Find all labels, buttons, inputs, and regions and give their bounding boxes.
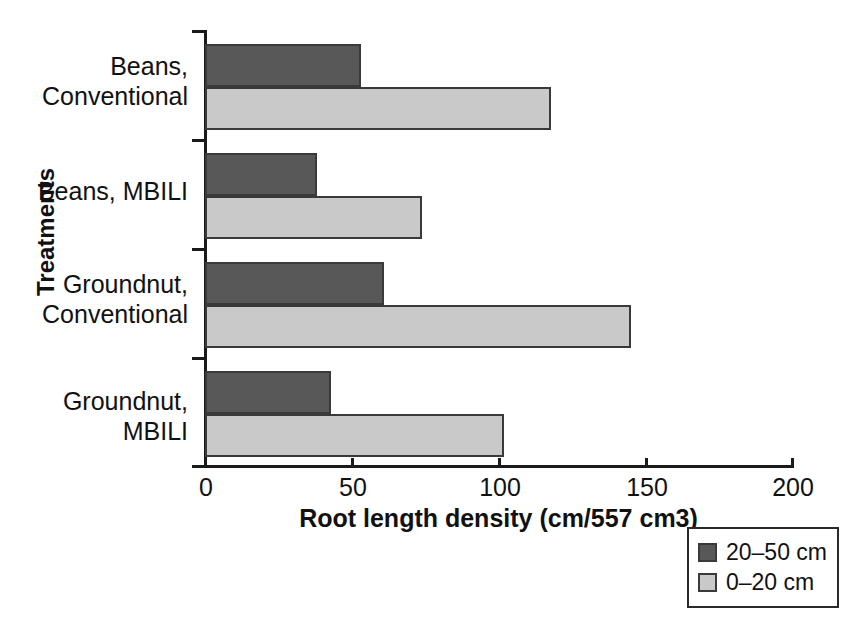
legend-label: 20–50 cm	[726, 539, 827, 566]
y-category-label-line: Beans, MBILI	[8, 176, 188, 206]
bar-groundnut-conventional-0-20	[205, 305, 631, 348]
x-tick-label-50: 50	[339, 473, 367, 502]
y-axis-tick	[192, 30, 205, 33]
chart-figure: Treatments Root length density (cm/557 c…	[0, 0, 849, 619]
x-tick-label-0: 0	[199, 473, 213, 502]
y-category-label-line: Groundnut,	[8, 269, 188, 299]
y-axis-tick	[192, 357, 205, 360]
y-category-label-beans-mbili: Beans, MBILI	[8, 176, 188, 206]
bar-groundnut-conventional-20-50	[205, 262, 384, 305]
y-category-label-groundnut-mbili: Groundnut, MBILI	[8, 386, 188, 446]
y-category-label-line: Conventional	[8, 81, 188, 111]
bar-groundnut-mbili-0-20	[205, 414, 504, 457]
y-axis-tick	[192, 248, 205, 251]
bar-groundnut-mbili-20-50	[205, 371, 331, 414]
bar-beans-mbili-0-20	[205, 196, 422, 239]
plot-area	[205, 30, 792, 467]
y-category-labels: Beans, Conventional Beans, MBILI Groundn…	[0, 0, 188, 619]
x-tick-label-200: 200	[772, 473, 814, 502]
bar-beans-conventional-0-20	[205, 87, 551, 130]
x-tick-label-150: 150	[626, 473, 668, 502]
y-category-label-line: Beans,	[8, 51, 188, 81]
legend-item-20-50: 20–50 cm	[698, 537, 828, 567]
legend: 20–50 cm 0–20 cm	[687, 527, 839, 608]
legend-swatch-icon	[698, 543, 717, 562]
y-axis-tick	[192, 139, 205, 142]
y-category-label-line: Groundnut,	[8, 386, 188, 416]
legend-item-0-20: 0–20 cm	[698, 567, 828, 597]
y-category-label-line: Conventional	[8, 299, 188, 329]
y-category-label-groundnut-conventional: Groundnut, Conventional	[8, 269, 188, 329]
bar-beans-conventional-20-50	[205, 44, 361, 87]
bar-beans-mbili-20-50	[205, 153, 317, 196]
y-category-label-line: MBILI	[8, 416, 188, 446]
legend-label: 0–20 cm	[726, 569, 814, 596]
legend-swatch-icon	[698, 573, 717, 592]
x-tick-label-100: 100	[479, 473, 521, 502]
y-category-label-beans-conventional: Beans, Conventional	[8, 51, 188, 111]
